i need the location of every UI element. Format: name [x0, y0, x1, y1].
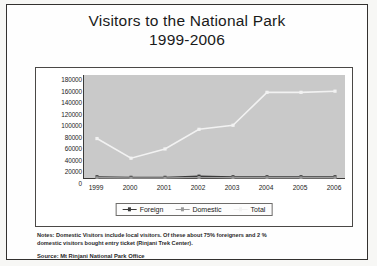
data-point-domestic	[96, 176, 99, 179]
x-tick-label: 1999	[89, 184, 104, 191]
legend-marker-icon	[128, 208, 131, 211]
data-point-total	[265, 91, 268, 94]
y-tick-label: 140000	[61, 99, 82, 106]
y-tick-label: 80000	[65, 133, 82, 140]
y-tick-label: 120000	[61, 110, 82, 117]
note-line-2: domestic visitors bought entry ticket (R…	[37, 239, 357, 247]
legend-label: Domestic	[192, 206, 221, 213]
data-point-total	[231, 124, 234, 127]
y-tick-label: 40000	[65, 156, 82, 163]
y-tick-label: 100000	[61, 122, 82, 129]
data-point-domestic	[164, 177, 167, 179]
data-point-domestic	[130, 177, 133, 179]
y-tick-label: 180000	[61, 76, 82, 83]
note-line-1: Notes: Domestic Visitors include local v…	[37, 231, 357, 239]
y-tick-label: 0	[79, 180, 82, 187]
x-tick-label: 2005	[293, 184, 308, 191]
data-point-domestic	[232, 176, 235, 179]
data-point-domestic	[266, 176, 269, 179]
legend-label: Foreign	[140, 206, 164, 213]
series-line-foreign	[97, 176, 335, 177]
notes-block: Notes: Domestic Visitors include local v…	[37, 231, 357, 247]
data-point-total	[129, 157, 132, 160]
legend-swatch-icon	[123, 209, 137, 210]
data-point-domestic	[334, 176, 337, 179]
legend-marker-icon	[239, 208, 242, 211]
plot-wrapper: 0200004000060000800001000001200001400001…	[36, 68, 352, 191]
page-title: Visitors to the National Park	[7, 11, 367, 30]
legend-item-domestic[interactable]: Domestic	[175, 206, 221, 213]
x-tick-label: 2002	[191, 184, 206, 191]
data-point-total	[163, 147, 166, 150]
legend-item-foreign[interactable]: Foreign	[123, 206, 164, 213]
x-tick-label: 2001	[157, 184, 172, 191]
y-axis-labels: 0200004000060000800001000001200001400001…	[38, 72, 82, 182]
series-layer	[84, 75, 345, 178]
plot-area	[83, 75, 345, 179]
x-tick-label: 2006	[327, 184, 342, 191]
source-line: Source: Mt Rinjani National Park Office	[37, 253, 145, 259]
series-svg	[84, 75, 348, 179]
y-tick-label: 60000	[65, 145, 82, 152]
x-tick-label: 2004	[259, 184, 274, 191]
screenshot-root: Visitors to the National Park 1999-2006 …	[0, 0, 377, 266]
legend-marker-icon	[181, 208, 184, 211]
data-point-total	[197, 128, 200, 131]
chart-title-block: Visitors to the National Park 1999-2006	[7, 11, 367, 49]
legend-swatch-icon	[175, 209, 189, 210]
x-axis-labels: 19992000200120022003200420052006	[83, 184, 345, 196]
y-tick-label: 160000	[61, 87, 82, 94]
data-point-total	[299, 91, 302, 94]
legend-item-total[interactable]: Total	[234, 206, 266, 213]
x-tick-label: 2003	[225, 184, 240, 191]
legend-label: Total	[251, 206, 266, 213]
y-tick-label: 20000	[65, 168, 82, 175]
x-tick-label: 2000	[123, 184, 138, 191]
legend-swatch-icon	[234, 209, 248, 210]
slide-frame: Visitors to the National Park 1999-2006 …	[6, 4, 368, 260]
data-point-total	[333, 90, 336, 93]
data-point-total	[95, 137, 98, 140]
chart-legend[interactable]: ForeignDomesticTotal	[116, 203, 273, 216]
series-line-total	[97, 91, 335, 158]
data-point-domestic	[300, 176, 303, 179]
data-point-domestic	[198, 176, 201, 179]
page-subtitle: 1999-2006	[7, 30, 367, 49]
series-line-domestic	[97, 178, 335, 179]
chart-panel: 0200004000060000800001000001200001400001…	[35, 67, 353, 227]
